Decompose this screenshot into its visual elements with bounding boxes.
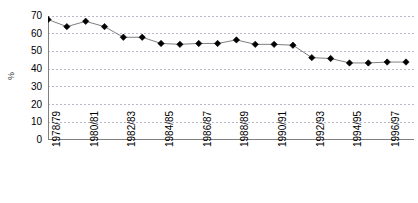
x-axis-tick-label: 1984/85 (165, 111, 175, 147)
x-axis-tick-label: 1982/83 (127, 111, 137, 147)
x-axis-tick-label: 1990/91 (278, 111, 288, 147)
x-axis-tick-label: 1988/89 (240, 111, 250, 147)
x-axis-tick-labels: 1978/791980/811982/831984/851986/871988/… (0, 0, 418, 203)
x-axis-tick-label: 1994/95 (353, 111, 363, 147)
x-axis-tick-label: 1980/81 (90, 111, 100, 147)
x-axis-tick-label: 1996/97 (391, 111, 401, 147)
x-axis-tick-label: 1978/79 (52, 111, 62, 147)
x-axis-tick-label: 1986/87 (203, 111, 213, 147)
x-axis-tick-label: 1992/93 (316, 111, 326, 147)
chart-container: % 010203040506070 1978/791980/811982/831… (0, 0, 418, 203)
